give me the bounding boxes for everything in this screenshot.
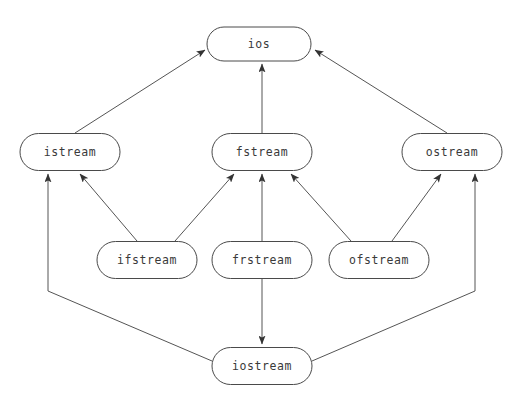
node-ofstream[interactable]: ofstream [329, 242, 429, 279]
node-label-frstream: frstream [232, 253, 292, 267]
node-ostream[interactable]: ostream [402, 134, 502, 171]
node-label-iostream: iostream [232, 359, 292, 373]
class-hierarchy-diagram: iosistreamfstreamostreamifstreamfrstream… [0, 0, 522, 403]
node-label-ostream: ostream [426, 145, 479, 159]
node-fstream[interactable]: fstream [212, 134, 312, 171]
node-label-istream: istream [44, 145, 97, 159]
node-istream[interactable]: istream [20, 134, 120, 171]
node-label-ofstream: ofstream [349, 253, 409, 267]
node-ios[interactable]: ios [207, 27, 311, 61]
node-ifstream[interactable]: ifstream [97, 242, 197, 279]
node-label-ios: ios [248, 37, 271, 51]
node-frstream[interactable]: frstream [212, 242, 312, 279]
node-label-fstream: fstream [236, 145, 289, 159]
node-label-ifstream: ifstream [117, 253, 177, 267]
node-iostream[interactable]: iostream [212, 348, 312, 385]
